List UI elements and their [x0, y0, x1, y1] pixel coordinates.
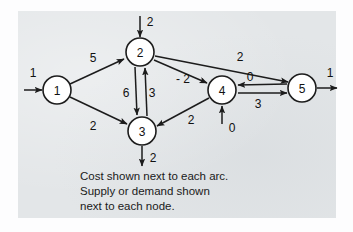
- arc-4-to-3: [157, 98, 209, 126]
- node-2-label: 2: [137, 46, 144, 60]
- demand-label-node-5: 1: [327, 66, 334, 80]
- node-1-label: 1: [54, 84, 61, 98]
- arc-3-to-2: [145, 68, 147, 116]
- node-4-label: 4: [219, 84, 226, 98]
- arc-cost-5-4: 0: [247, 70, 254, 84]
- arc-1-to-3: [70, 97, 127, 124]
- node-3[interactable]: 3: [128, 117, 156, 145]
- supply-label-node-2: 2: [147, 15, 154, 29]
- arc-cost-2-5: 2: [237, 50, 244, 64]
- network-arcs: [70, 56, 288, 126]
- arc-5-to-4: [238, 84, 287, 85]
- arc-1-to-2: [70, 59, 124, 84]
- arc-cost-4-5: 3: [255, 97, 262, 111]
- network-nodes: 1 2 3 4 5: [43, 38, 316, 145]
- node-5[interactable]: 5: [288, 74, 316, 102]
- arc-cost-2-4: - 2: [176, 72, 190, 86]
- caption-line-1: Cost shown next to each arc.: [80, 170, 228, 182]
- supply-label-node-1: 1: [30, 66, 37, 80]
- arc-cost-1-3: 2: [90, 119, 97, 133]
- supply-label-node-4: 0: [229, 121, 236, 135]
- caption-line-2: Supply or demand shown: [80, 185, 210, 197]
- figure-caption: Cost shown next to each arc. Supply or d…: [80, 170, 228, 212]
- arc-cost-4-3: 2: [188, 113, 195, 127]
- arc-cost-3-2: 3: [149, 86, 156, 100]
- demand-label-node-3: 2: [150, 151, 157, 165]
- caption-line-3: next to each node.: [80, 200, 175, 212]
- arc-cost-2-3: 6: [123, 86, 130, 100]
- network-diagram: 1 2 3 4 5 5 2 6 3 - 2: [0, 0, 353, 232]
- figure-canvas: 1 2 3 4 5 5 2 6 3 - 2: [0, 0, 353, 232]
- node-3-label: 3: [139, 125, 146, 139]
- node-4[interactable]: 4: [208, 76, 236, 104]
- arc-2-to-3: [135, 67, 137, 115]
- node-1[interactable]: 1: [43, 76, 71, 104]
- arc-cost-1-2: 5: [90, 51, 97, 65]
- node-2[interactable]: 2: [126, 38, 154, 66]
- node-5-label: 5: [299, 82, 306, 96]
